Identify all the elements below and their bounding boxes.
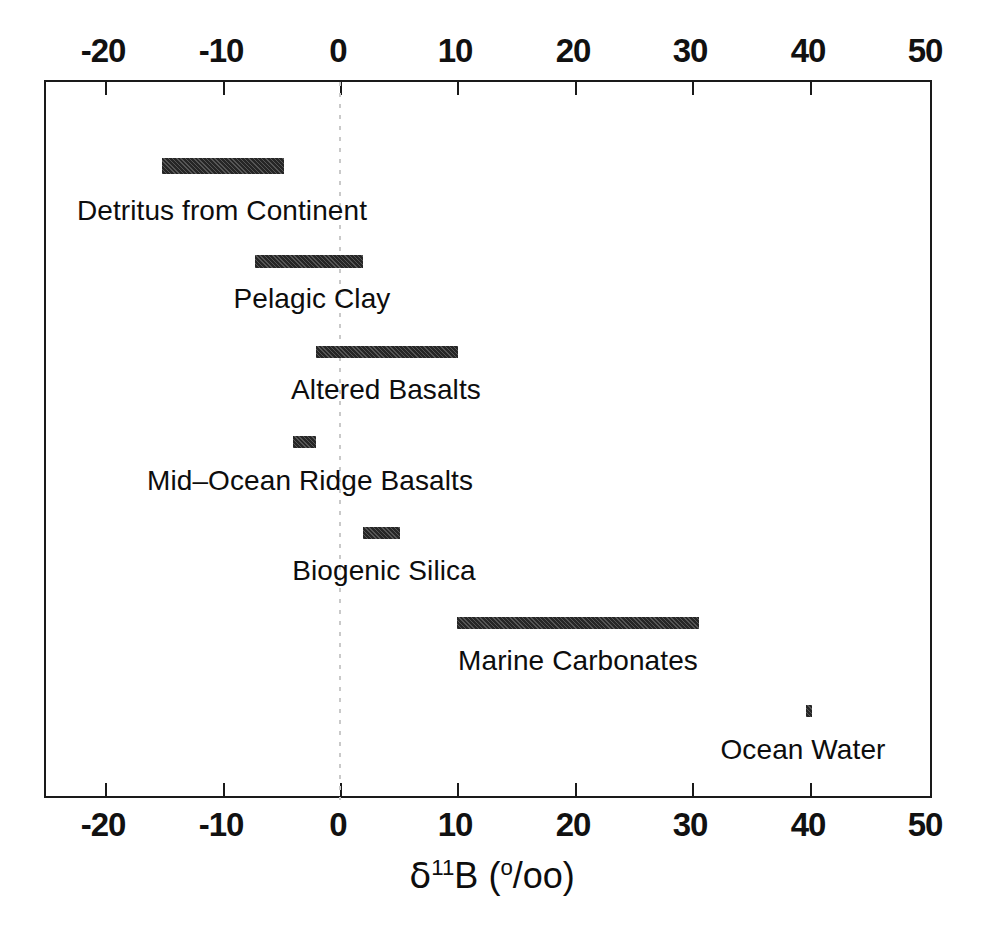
xtick-top-6	[810, 82, 812, 95]
xtick-bottom-1	[223, 783, 225, 796]
xtick-label-top-0: -20	[81, 32, 126, 70]
xtick-label-top-4: 20	[556, 32, 591, 70]
element-symbol: B	[454, 855, 478, 896]
xtick-label-top-7: 50	[908, 32, 943, 70]
units-open-paren: (	[478, 855, 500, 896]
range-bar-mid-ocean-ridge-basalts	[293, 436, 316, 448]
xtick-bottom-3	[457, 783, 459, 796]
range-bar-altered-basalts	[316, 346, 458, 358]
series-label-marine-carbonates: Marine Carbonates	[458, 645, 698, 677]
xtick-label-top-1: -10	[199, 32, 244, 70]
xtick-top-4	[575, 82, 577, 95]
series-label-detritus-from-continent: Detritus from Continent	[77, 195, 367, 227]
xtick-label-bottom-6: 40	[791, 806, 826, 844]
xtick-top-3	[457, 82, 459, 95]
xtick-label-top-3: 10	[438, 32, 473, 70]
xtick-top-0	[105, 82, 107, 95]
xtick-bottom-0	[105, 783, 107, 796]
xtick-bottom-6	[810, 783, 812, 796]
xtick-top-5	[692, 82, 694, 95]
xtick-bottom-4	[575, 783, 577, 796]
xtick-label-bottom-4: 20	[556, 806, 591, 844]
units-remainder: /oo)	[513, 855, 575, 896]
delta-symbol: δ	[409, 855, 431, 896]
plot-area: Detritus from Continent Pelagic Clay Alt…	[44, 80, 932, 798]
x-axis-title: δ11B (o/oo)	[0, 855, 984, 897]
range-bar-detritus-from-continent	[162, 158, 284, 174]
boron-isotope-range-chart: -20 -10 0 10 20 30 40 50 -20 -10 0 10 20…	[0, 0, 984, 926]
permil-degree-symbol: o	[500, 855, 512, 880]
xtick-label-bottom-3: 10	[438, 806, 473, 844]
xtick-label-bottom-2: 0	[329, 806, 346, 844]
xtick-bottom-5	[692, 783, 694, 796]
xtick-label-bottom-7: 50	[908, 806, 943, 844]
xtick-top-1	[223, 82, 225, 95]
xtick-label-top-6: 40	[791, 32, 826, 70]
mass-number-superscript: 11	[431, 855, 454, 880]
series-label-altered-basalts: Altered Basalts	[291, 374, 481, 406]
xtick-label-bottom-5: 30	[673, 806, 708, 844]
xtick-label-bottom-1: -10	[199, 806, 244, 844]
series-label-biogenic-silica: Biogenic Silica	[292, 555, 476, 587]
zero-reference-line	[339, 82, 341, 800]
range-bar-biogenic-silica	[363, 527, 400, 539]
range-bar-ocean-water	[806, 705, 812, 717]
series-label-ocean-water: Ocean Water	[720, 734, 885, 766]
xtick-label-bottom-0: -20	[81, 806, 126, 844]
range-bar-marine-carbonates	[457, 617, 699, 629]
range-bar-pelagic-clay	[255, 255, 363, 268]
series-label-mid-ocean-ridge-basalts: Mid–Ocean Ridge Basalts	[147, 465, 473, 497]
xtick-label-top-2: 0	[329, 32, 346, 70]
series-label-pelagic-clay: Pelagic Clay	[234, 283, 391, 315]
xtick-label-top-5: 30	[673, 32, 708, 70]
